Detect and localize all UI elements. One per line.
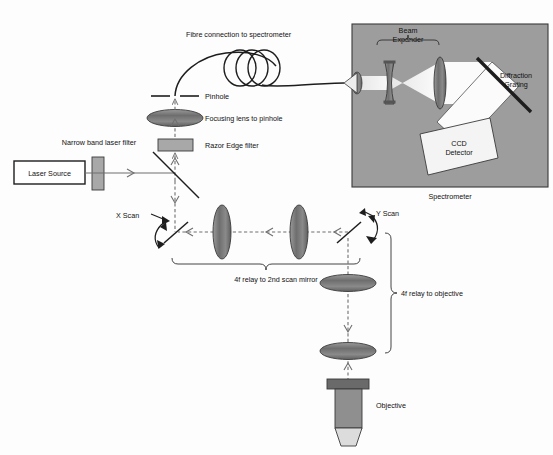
spectrometer-label: Spectrometer: [428, 192, 472, 201]
objective-barrel: [335, 389, 362, 428]
relay-2nd-scan-mirror-label: 4f relay to 2nd scan mirror: [234, 275, 318, 284]
objective-relay-lens-2: [320, 343, 376, 360]
relay-objective-brace: [385, 233, 397, 353]
optical-diagram-canvas: Beam Expander Diffraction Grating CCD De…: [0, 0, 553, 455]
razor-edge-filter: [158, 139, 193, 151]
y-scan-arrowhead-upper: [368, 215, 375, 223]
objective-assembly: Objective: [327, 379, 406, 446]
fibre-connection-label: Fibre connection to spectrometer: [186, 30, 292, 39]
ccd-detector-label-line1: CCD: [451, 139, 467, 148]
collection-beam-path: [175, 99, 348, 380]
collection-arrowheads: [171, 119, 352, 370]
diffraction-grating-label-line1: Diffraction: [500, 71, 532, 80]
y-scan-pointer: [365, 212, 373, 216]
fibre-collection-arm: Fibre connection to spectrometer Pinhole…: [147, 30, 344, 151]
diffraction-grating-label-line2: Grating: [504, 80, 528, 89]
relay-lens-2: [290, 205, 308, 259]
fibre-to-spectrometer: [262, 83, 344, 86]
relay-objective-label: 4f relay to objective: [401, 289, 463, 298]
laser-source-label: Laser Source: [28, 169, 71, 178]
narrow-band-filter-label: Narrow band laser filter: [62, 138, 137, 147]
objective-label: Objective: [376, 401, 406, 410]
y-scan-label: Y Scan: [376, 209, 399, 218]
objective-relay-lens-1: [320, 275, 376, 292]
y-scan-pointer-head: [359, 208, 366, 216]
razor-edge-filter-label: Razor Edge filter: [205, 141, 259, 150]
laser-excitation-arm: Laser Source Narrow band laser filter: [14, 138, 175, 190]
x-scan-label: X Scan: [116, 211, 139, 220]
objective-tip: [335, 428, 362, 446]
ccd-detector-label-line2: Detector: [445, 148, 473, 157]
relay-2nd-scan-mirror-brace: [172, 258, 360, 270]
focusing-lens-label: Focusing lens to pinhole: [205, 114, 283, 123]
beam-expander-positive-lens: [434, 57, 446, 109]
pinhole-label: Pinhole: [205, 92, 229, 101]
relay-lens-1: [213, 205, 231, 259]
objective-mount-plate: [327, 379, 369, 389]
beam-expander-label-line2: Expander: [393, 35, 424, 44]
spectrometer-input-beam: [358, 76, 392, 90]
spectrometer-module: Beam Expander Diffraction Grating CCD De…: [344, 24, 548, 201]
fibre-input-cone: [344, 73, 357, 93]
